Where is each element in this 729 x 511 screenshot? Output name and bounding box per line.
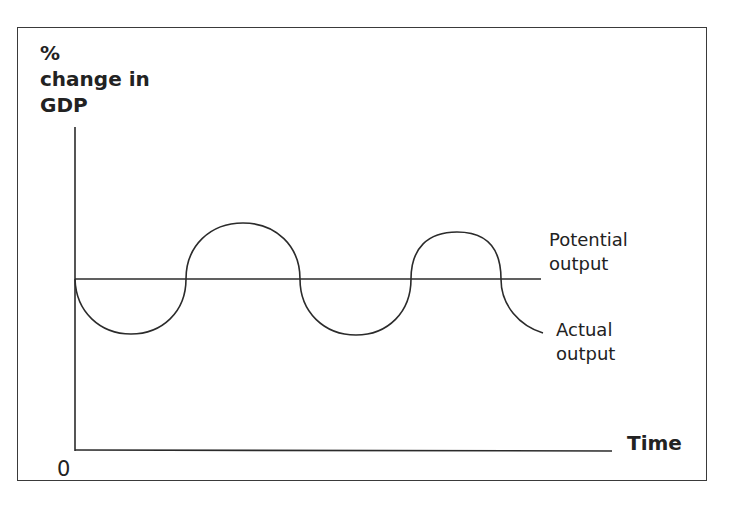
x-axis-label: Time (627, 431, 682, 455)
actual-output-label-line-1: Actual (556, 318, 615, 342)
actual-output-label: Actual output (556, 318, 615, 366)
potential-output-label-line-1: Potential (549, 228, 628, 252)
y-axis-label-line-2: change in (40, 66, 150, 92)
y-axis-label-line-3: GDP (40, 92, 150, 118)
potential-output-label: Potential output (549, 228, 628, 276)
y-axis-label-line-1: % (40, 40, 150, 66)
x-axis (75, 450, 612, 451)
y-axis-label: % change in GDP (40, 40, 150, 118)
origin-label: 0 (57, 457, 70, 481)
actual-output-label-line-2: output (556, 342, 615, 366)
potential-output-label-line-2: output (549, 252, 628, 276)
